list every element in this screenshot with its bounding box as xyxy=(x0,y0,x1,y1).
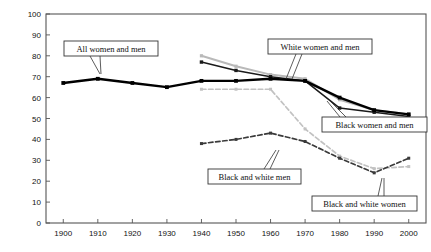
y-tick-label: 30 xyxy=(32,156,41,165)
data-point xyxy=(200,88,203,91)
data-point xyxy=(235,138,238,141)
series-white-women-and-men xyxy=(200,54,410,116)
x-tick-label: 1960 xyxy=(262,229,280,238)
data-point xyxy=(200,79,204,83)
x-tick-label: 1990 xyxy=(365,229,383,238)
data-point xyxy=(304,127,307,130)
data-point xyxy=(304,140,307,143)
data-point xyxy=(200,54,203,57)
x-tick-label: 1900 xyxy=(54,229,72,238)
y-axis-title-text: INDEX OF SEGREGATION xyxy=(0,0,8,28)
plot-area: 0102030405060708090100 19001910192019301… xyxy=(0,0,431,252)
x-tick-label: 1970 xyxy=(296,229,314,238)
annotation-leader-line xyxy=(292,54,302,79)
x-tick-label: 1930 xyxy=(158,229,176,238)
data-point xyxy=(338,96,342,100)
data-point xyxy=(269,77,273,81)
data-point xyxy=(407,112,411,116)
annotation-black-and-white-men: Black and white men xyxy=(208,150,301,184)
data-point xyxy=(269,132,272,135)
x-tick-label: 1910 xyxy=(89,229,107,238)
series-layer xyxy=(61,54,410,174)
data-point xyxy=(234,69,237,72)
y-tick-label: 20 xyxy=(32,177,41,186)
annotation-leader-line xyxy=(378,178,382,196)
data-point xyxy=(407,165,410,168)
data-point xyxy=(269,88,272,91)
annotation-black-and-white-women: Black and white women xyxy=(312,178,417,211)
y-tick-label: 60 xyxy=(32,94,41,103)
y-tick-label: 90 xyxy=(32,31,41,40)
y-axis-title: INDEX OF SEGREGATION xyxy=(0,0,12,28)
data-point xyxy=(130,81,134,85)
chart-container: INDEX OF SEGREGATION 0102030405060708090… xyxy=(0,0,431,252)
annotation-label: Black and white women xyxy=(323,199,406,209)
annotation-leader-line xyxy=(90,56,100,74)
x-tick-label: 1940 xyxy=(193,229,211,238)
y-axis-ticks: 0102030405060708090100 xyxy=(28,10,50,228)
y-tick-label: 40 xyxy=(32,135,41,144)
data-point xyxy=(96,77,100,81)
data-point xyxy=(373,171,376,174)
data-point xyxy=(235,88,238,91)
annotation-leader-line xyxy=(286,54,296,79)
data-point xyxy=(61,81,65,85)
data-point xyxy=(372,108,376,112)
data-point xyxy=(303,79,307,83)
data-point xyxy=(338,157,341,160)
x-tick-label: 1920 xyxy=(123,229,141,238)
annotation-leader-line xyxy=(100,56,101,74)
series-line xyxy=(201,56,408,115)
y-tick-label: 10 xyxy=(32,198,41,207)
annotation-white-women-and-men: White women and men xyxy=(268,39,372,79)
annotation-all-women-and-men: All women and men xyxy=(64,41,158,74)
data-point xyxy=(234,79,238,83)
annotation-label: White women and men xyxy=(280,42,360,52)
data-point xyxy=(200,142,203,145)
annotation-label: Black women and men xyxy=(335,120,414,130)
series-line xyxy=(63,79,408,115)
x-tick-label: 1950 xyxy=(227,229,245,238)
y-tick-label: 70 xyxy=(32,73,41,82)
data-point xyxy=(234,65,237,68)
y-tick-label: 50 xyxy=(32,115,41,124)
x-tick-label: 2000 xyxy=(400,229,418,238)
annotation-label: Black and white men xyxy=(219,172,292,182)
x-tick-label: 1980 xyxy=(331,229,349,238)
data-point xyxy=(407,157,410,160)
y-tick-label: 80 xyxy=(32,52,41,61)
series-line xyxy=(201,133,408,173)
data-point xyxy=(165,85,169,89)
data-point xyxy=(200,60,203,63)
y-tick-label: 100 xyxy=(28,10,42,19)
annotation-label: All women and men xyxy=(76,44,146,54)
y-tick-label: 0 xyxy=(37,219,42,228)
x-axis-ticks: 1900191019201930194019501960197019801990… xyxy=(54,219,418,238)
data-point xyxy=(373,167,376,170)
annotation-layer: All women and menWhite women and menBlac… xyxy=(64,39,427,211)
